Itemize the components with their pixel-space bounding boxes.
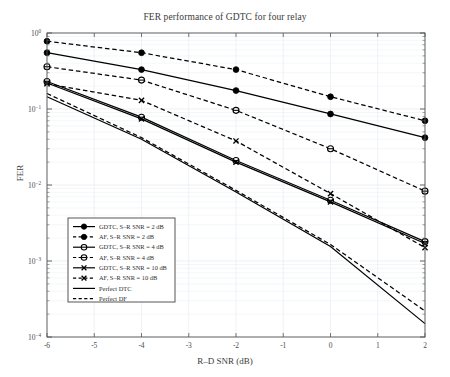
svg-text:100: 100 [31, 28, 42, 38]
svg-text:-4: -4 [138, 341, 144, 350]
legend-label: AF, S–R SNR = 10 dB [99, 274, 157, 281]
svg-text:-5: -5 [91, 341, 97, 350]
svg-text:2: 2 [423, 341, 427, 350]
legend-label: GDTC, S–R SNR = 4 dB [99, 243, 164, 250]
legend-item[interactable]: AF, S–R SNR = 2 dB [73, 233, 154, 240]
svg-text:-2: -2 [233, 341, 239, 350]
legend-label: Perfect DTC [99, 285, 131, 292]
legend-label: GDTC, S–R SNR = 10 dB [99, 264, 167, 271]
figure-container: FER performance of GDTC for four relay F… [0, 0, 450, 377]
legend-item[interactable]: AF, S–R SNR = 4 dB [73, 254, 154, 261]
plot-area: -6-5-4-3-2-101210−410−310−210−1100 GDTC,… [0, 0, 450, 377]
svg-text:-1: -1 [280, 341, 286, 350]
svg-text:1: 1 [376, 341, 380, 350]
svg-text:-6: -6 [44, 341, 50, 350]
chart-legend[interactable]: GDTC, S–R SNR = 2 dBAF, S–R SNR = 2 dBGD… [68, 218, 175, 302]
svg-text:10−3: 10−3 [28, 256, 41, 266]
svg-text:10−4: 10−4 [28, 332, 41, 342]
legend-label: AF, S–R SNR = 2 dB [99, 233, 154, 240]
legend-label: GDTC, S–R SNR = 2 dB [99, 223, 164, 230]
svg-text:10−2: 10−2 [28, 180, 41, 190]
svg-text:10−1: 10−1 [28, 104, 41, 114]
legend-label: Perfect DF [99, 295, 127, 302]
svg-text:-3: -3 [186, 341, 192, 350]
svg-text:0: 0 [329, 341, 333, 350]
legend-label: AF, S–R SNR = 4 dB [99, 254, 154, 261]
